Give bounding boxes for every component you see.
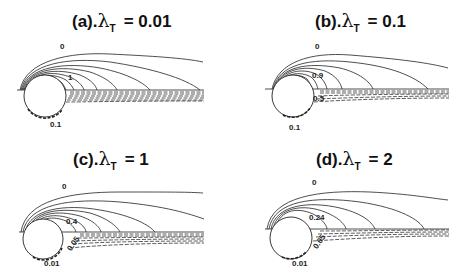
panel-b: (b).λT= 0.1 0 0.9 0.5 0.1 (265, 9, 449, 132)
contour-label: 0 (60, 42, 65, 51)
streamlines-dashed (313, 230, 449, 241)
panel-a-title: (a).λT= 0.01 (72, 9, 171, 34)
panel-d-title: (d).λT= 2 (316, 147, 393, 172)
contour-label: 0 (315, 42, 320, 51)
contour-label: 0 (62, 182, 67, 191)
streamlines-dashed (66, 92, 204, 102)
contour-label: 0.9 (312, 71, 324, 80)
streamlines-dashed (70, 234, 204, 248)
streamlines-dashed (314, 91, 449, 102)
contour-label: 0.1 (289, 123, 301, 132)
contour-label: 1 (68, 73, 73, 82)
contour-label: 0.01 (44, 259, 60, 268)
contour-label: 0.4 (66, 217, 78, 226)
contour-label: 0.05 (311, 232, 328, 250)
contour-label: 0.01 (292, 259, 308, 268)
panel-c: (c).λT= 1 0 0.4 0.05 0.01 (19, 147, 204, 268)
panel-b-title: (b).λT= 0.1 (315, 9, 406, 34)
panel-d: (d).λT= 2 0 0.24 0.05 0.01 (265, 147, 449, 268)
contour-label: 0.5 (313, 94, 325, 103)
contour-label: 0.24 (309, 213, 325, 222)
panel-c-title: (c).λT= 1 (73, 147, 149, 172)
contour-label: 0 (312, 178, 317, 187)
contour-figure: (a).λT= 0.01 0 1 0.1 (b).λT= (0, 0, 466, 276)
panel-a: (a).λT= 0.01 0 1 0.1 (17, 9, 204, 129)
contour-label: 0.1 (50, 120, 62, 129)
